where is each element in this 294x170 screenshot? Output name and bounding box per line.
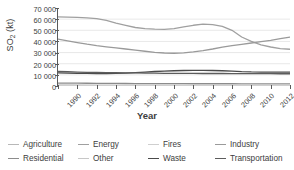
- legend-line-swatch: [78, 158, 89, 159]
- y-axis-tick-label: 50 000: [33, 28, 56, 35]
- legend-label: Residential: [23, 154, 64, 163]
- y-axis-tick-label: 30 000: [33, 50, 56, 57]
- x-axis-tick-mark: [213, 85, 214, 89]
- y-axis-tick-label: 10 000: [33, 73, 56, 80]
- legend-line-swatch: [148, 158, 159, 159]
- x-axis-tick-mark: [232, 85, 233, 89]
- legend-line-swatch: [215, 144, 226, 145]
- y-axis-tick-label: 0: [52, 84, 56, 91]
- x-axis-tick-label: 1998: [143, 92, 160, 109]
- x-axis-title: Year: [0, 110, 294, 121]
- y-axis-tick-label: 20 000: [33, 62, 56, 69]
- x-axis-tick-mark: [97, 85, 98, 89]
- y-axis-tick-mark: [55, 75, 59, 76]
- series-lines: [58, 8, 290, 86]
- x-axis-tick-label: 1992: [85, 92, 102, 109]
- x-axis-tick-label: 2010: [259, 92, 276, 109]
- legend-label: Agriculture: [23, 140, 62, 149]
- legend-row: AgricultureEnergyFiresIndustry: [0, 138, 294, 151]
- series-line-residential: [58, 83, 290, 84]
- legend-line-swatch: [215, 158, 226, 159]
- x-axis-tick-label: 1996: [124, 92, 141, 109]
- x-axis-tick-mark: [271, 85, 272, 89]
- legend-line-swatch: [8, 158, 19, 159]
- x-axis-tick-mark: [116, 85, 117, 89]
- y-axis-tick-labels: 70 00060 00050 00040 00030 00020 00010 0…: [14, 6, 56, 86]
- y-axis-tick-label: 60 000: [33, 17, 56, 24]
- legend-label: Waste: [163, 154, 186, 163]
- legend-item-other[interactable]: Other: [78, 152, 113, 165]
- series-line-energy: [58, 17, 290, 49]
- x-axis-tick-label: 1994: [104, 92, 121, 109]
- legend-label: Energy: [93, 140, 119, 149]
- x-axis-tick-mark: [290, 85, 291, 89]
- legend-item-fires[interactable]: Fires: [148, 138, 181, 151]
- line-chart: SO2 (kt) 70 00060 00050 00040 00030 0002…: [0, 0, 294, 124]
- x-axis-tick-mark: [135, 85, 136, 89]
- x-axis-tick-mark: [174, 85, 175, 89]
- plot-area: [57, 8, 289, 86]
- y-axis-tick-mark: [55, 19, 59, 20]
- y-axis-tick-mark: [55, 64, 59, 65]
- y-axis-tick-mark: [55, 8, 59, 9]
- y-axis-tick-mark: [55, 30, 59, 31]
- x-axis-tick-label: 2008: [240, 92, 257, 109]
- y-axis-tick-mark: [55, 53, 59, 54]
- chart-screenshot: SO2 (kt) 70 00060 00050 00040 00030 0002…: [0, 0, 294, 170]
- x-axis-tick-mark: [193, 85, 194, 89]
- legend-label: Other: [93, 154, 113, 163]
- legend-line-swatch: [148, 144, 159, 145]
- legend-item-transportation[interactable]: Transportation: [215, 152, 283, 165]
- y-axis-tick-label: 40 000: [33, 39, 56, 46]
- legend-item-energy[interactable]: Energy: [78, 138, 119, 151]
- legend-label: Fires: [163, 140, 181, 149]
- legend-item-industry[interactable]: Industry: [215, 138, 259, 151]
- x-axis-tick-label: 2004: [201, 92, 218, 109]
- legend-line-swatch: [78, 144, 89, 145]
- series-line-industry: [58, 37, 290, 53]
- legend-item-residential[interactable]: Residential: [8, 152, 64, 165]
- x-axis-tick-mark: [77, 85, 78, 89]
- legend-row: ResidentialOtherWasteTransportation: [0, 152, 294, 165]
- x-axis-tick-label: 2012: [278, 92, 294, 109]
- x-axis-tick-label: 2006: [220, 92, 237, 109]
- y-axis-tick-label: 70 000: [33, 6, 56, 13]
- x-axis-tick-mark: [251, 85, 252, 89]
- chart-legend: AgricultureEnergyFiresIndustryResidentia…: [0, 138, 294, 168]
- legend-label: Transportation: [230, 154, 283, 163]
- legend-label: Industry: [230, 140, 259, 149]
- legend-item-agriculture[interactable]: Agriculture: [8, 138, 62, 151]
- x-axis-tick-label: 2000: [162, 92, 179, 109]
- x-axis-tick-label: 2002: [182, 92, 199, 109]
- x-axis-tick-mark: [58, 85, 59, 89]
- y-axis-tick-mark: [55, 41, 59, 42]
- x-axis-tick-label: 1990: [66, 92, 83, 109]
- legend-line-swatch: [8, 144, 19, 145]
- legend-item-waste[interactable]: Waste: [148, 152, 186, 165]
- x-axis-tick-mark: [155, 85, 156, 89]
